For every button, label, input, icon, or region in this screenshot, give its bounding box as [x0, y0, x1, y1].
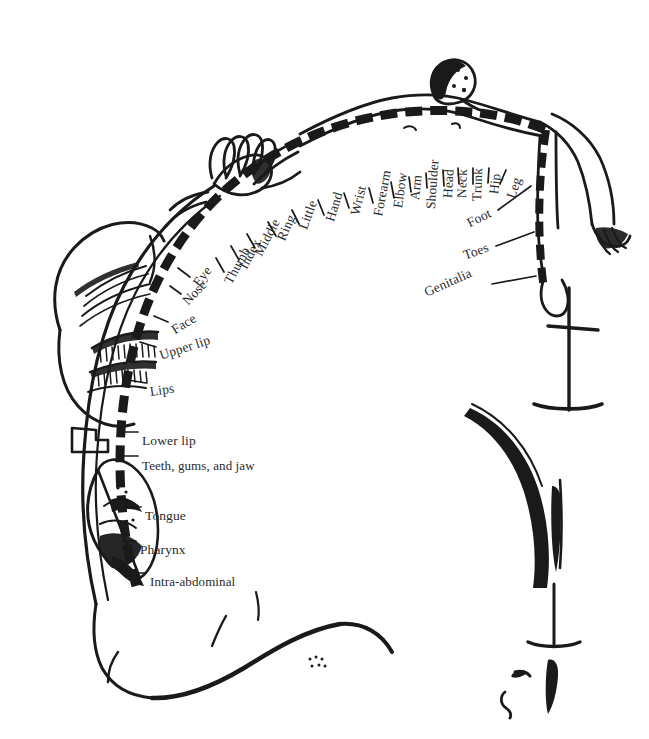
homunculus-artwork — [0, 0, 649, 739]
label-lower-lip: Lower lip — [142, 433, 196, 449]
homunculus-figure: ThumbIndexMiddleRingLittleHandWristForea… — [0, 0, 649, 739]
label-hip: Hip — [486, 173, 504, 195]
giant-hand-shading — [251, 159, 270, 184]
label-lips: Lips — [149, 381, 175, 400]
cortex-texture-dots — [309, 656, 327, 668]
right-wedge-fill — [464, 408, 561, 714]
homunculus-face — [55, 222, 164, 426]
label-pharynx: Pharynx — [140, 542, 186, 558]
label-teeth: Teeth, gums, and jaw — [142, 458, 255, 474]
label-trunk: Trunk — [469, 168, 486, 202]
label-intra: Intra-abdominal — [150, 574, 235, 590]
label-tongue: Tongue — [145, 508, 186, 524]
